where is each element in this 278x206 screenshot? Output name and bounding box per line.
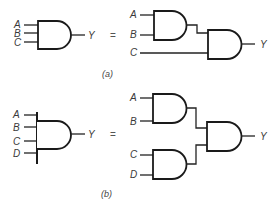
logic-gate-diagram: A B C Y = A B C Y (a) A B C D Y = [0,0,278,206]
b-rhs-input-a: A [129,92,137,103]
b-lhs-input-b: B [13,122,20,133]
b-lhs-input-c: C [13,136,21,147]
b-rhs-input-c: C [130,149,138,160]
a-lhs-input-c: C [14,37,22,48]
a-lhs-and-gate-3input [24,21,85,49]
b-rhs-input-d: D [130,169,137,180]
a-rhs-input-b: B [130,29,137,40]
a-rhs-and-gate-1 [140,11,187,40]
caption-a: (a) [102,69,113,79]
caption-b: (b) [101,189,112,199]
a-rhs-input-c: C [130,47,138,58]
b-rhs-and-gate-final [186,108,255,164]
b-lhs-input-d: D [13,148,20,159]
a-lhs-output-y: Y [88,30,96,41]
a-equals-sign: = [110,30,116,41]
b-rhs-and-gate-cd [140,150,187,179]
b-lhs-output-y: Y [88,129,96,140]
b-lhs-and-gate-4input [24,112,85,164]
b-lhs-input-a: A [12,109,20,120]
b-rhs-input-b: B [130,116,137,127]
b-equals-sign: = [110,129,116,140]
b-rhs-and-gate-ab [140,94,187,123]
b-rhs-output-y: Y [260,131,268,142]
a-rhs-input-a: A [129,9,137,20]
a-rhs-output-y: Y [260,39,268,50]
